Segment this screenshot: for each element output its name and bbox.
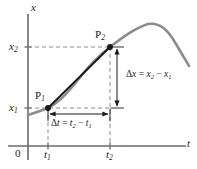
graph-canvas [0, 0, 197, 169]
secant-line [48, 47, 110, 108]
t-axis-label: t [187, 138, 190, 149]
origin-label: 0 [15, 148, 21, 159]
t2-tick-label: t2 [106, 149, 113, 160]
point-p2-label: P2 [95, 29, 105, 40]
delta-x-annotation: Δx = x2 − x1 [126, 70, 171, 80]
delta-t-annotation: Δt = t2 − t1 [51, 119, 92, 129]
x-axis-label: x [31, 2, 36, 13]
t1-tick-label: t1 [44, 149, 51, 160]
x1-tick-label: x1 [9, 102, 18, 113]
position-time-graph-figure: x t 0 x2 x1 t1 t2 P1 P2 Δx = x2 − x1 Δt … [0, 0, 197, 169]
x2-tick-label: x2 [9, 41, 18, 52]
point-p1-label: P1 [35, 90, 45, 101]
